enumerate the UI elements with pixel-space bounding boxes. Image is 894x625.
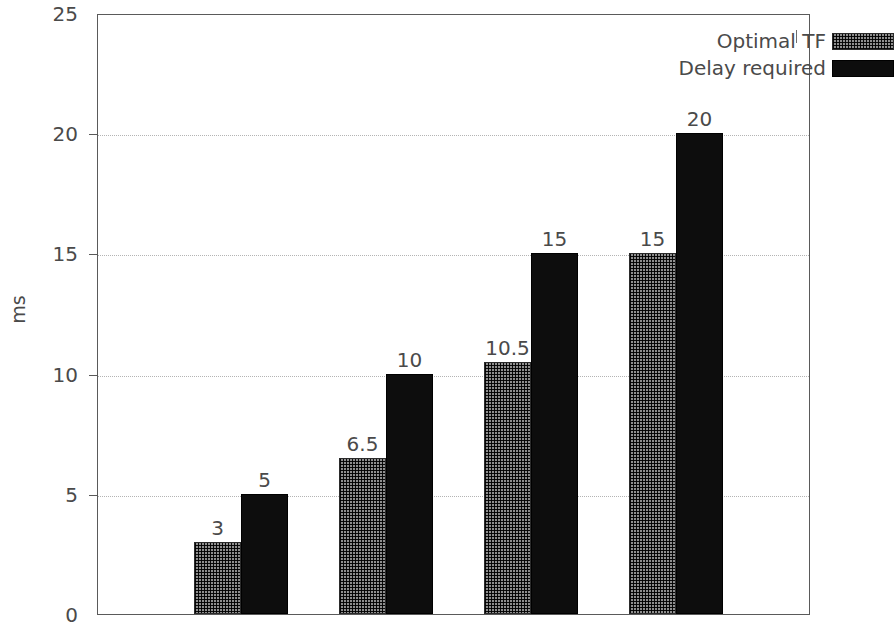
y-axis-label-wrap: 0 <box>18 605 78 625</box>
bar-delay-required-group-3 <box>531 253 578 614</box>
y-axis-label: 10 <box>18 365 78 385</box>
bar-delay-required-group-1 <box>241 494 288 614</box>
bar-value-label: 15 <box>542 229 567 249</box>
y-axis-label: 20 <box>18 124 78 144</box>
bar-value-label: 5 <box>258 470 271 490</box>
y-axis-label: 0 <box>18 605 78 625</box>
y-axis-label-wrap: 20 <box>18 124 78 144</box>
y-axis-label-wrap: 25 <box>18 4 78 24</box>
legend-label-delay-required: Delay required <box>678 57 826 79</box>
bar-optimal-tf-group-2 <box>339 458 386 614</box>
y-axis-label-wrap: 10 <box>18 365 78 385</box>
bar-optimal-tf-group-4 <box>629 253 676 614</box>
y-axis-label-wrap: 5 <box>18 485 78 505</box>
bar-value-label: 6.5 <box>347 434 379 454</box>
y-axis-title: ms <box>9 280 28 340</box>
legend-label-optimal-tf: Optimal TF <box>717 30 826 52</box>
bar-value-label: 3 <box>211 518 224 538</box>
bar-optimal-tf-group-3 <box>484 362 531 614</box>
y-axis-label: 5 <box>18 485 78 505</box>
plot-area: 36.510.5155101520 Optimal TF Delay requi… <box>97 14 810 615</box>
bar-value-label: 15 <box>640 229 665 249</box>
bar-value-label: 10.5 <box>485 338 530 358</box>
bar-value-label: 20 <box>687 109 712 129</box>
y-axis-label-wrap: 15 <box>18 244 78 264</box>
bar-delay-required-group-2 <box>386 374 433 614</box>
bar-value-label: 10 <box>397 350 422 370</box>
y-axis-label: 25 <box>18 4 78 24</box>
y-axis-label: 15 <box>18 244 78 264</box>
bar-optimal-tf-group-1 <box>194 542 241 614</box>
legend-item-optimal-tf: Optimal TF <box>651 30 894 56</box>
bar-delay-required-group-4 <box>676 133 723 614</box>
legend-swatch-delay-required <box>832 60 894 77</box>
legend-swatch-optimal-tf <box>832 33 894 50</box>
chart-legend: Optimal TF Delay required <box>651 30 894 87</box>
legend-item-delay-required: Delay required <box>651 57 894 83</box>
